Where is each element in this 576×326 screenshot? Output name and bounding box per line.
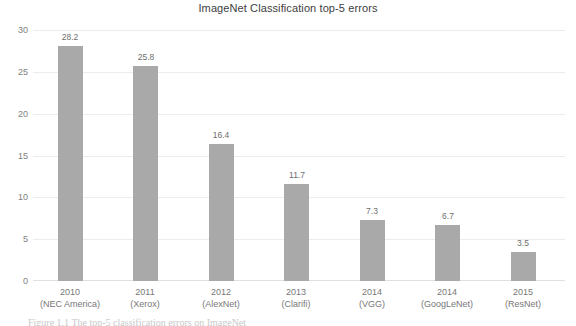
y-axis-tick-20: 20 <box>4 110 28 119</box>
bar-value-2015: 3.5 <box>498 239 548 248</box>
plot-area: 28.2 25.8 16.4 11.7 7.3 6.7 3.5 <box>33 30 565 281</box>
bar-2014-vgg[interactable] <box>360 220 385 281</box>
bar-2015[interactable] <box>511 252 536 281</box>
bar-chart: ImageNet Classification top-5 errors 30 … <box>0 0 576 326</box>
chart-title: ImageNet Classification top-5 errors <box>0 2 576 14</box>
x-axis-tick-2015-year: 2015 <box>478 286 568 298</box>
bar-2012[interactable] <box>209 144 234 281</box>
bar-value-2012: 16.4 <box>196 131 246 140</box>
x-axis-tick-2015: 2015 (ResNet) <box>478 286 568 310</box>
figure-caption: Figure 1.1 The top-5 classification erro… <box>28 317 548 326</box>
x-axis-tick-2015-sub: (ResNet) <box>478 298 568 310</box>
y-axis-tick-30: 30 <box>4 26 28 35</box>
bar-value-2011: 25.8 <box>121 53 171 62</box>
bar-2014-googlenet[interactable] <box>435 225 460 281</box>
bar-value-2014-googlenet: 6.7 <box>423 212 473 221</box>
gridline-20 <box>33 114 565 115</box>
y-axis-tick-5: 5 <box>4 235 28 244</box>
bar-2011[interactable] <box>133 66 158 281</box>
gridline-15 <box>33 156 565 157</box>
bar-value-2010: 28.2 <box>45 33 95 42</box>
bar-2013[interactable] <box>284 184 309 282</box>
y-axis-tick-10: 10 <box>4 193 28 202</box>
y-axis-tick-0: 0 <box>4 277 28 286</box>
bar-2010[interactable] <box>58 46 83 281</box>
bar-value-2014-vgg: 7.3 <box>347 207 397 216</box>
bar-value-2013: 11.7 <box>272 171 322 180</box>
y-axis-tick-15: 15 <box>4 152 28 161</box>
gridline-25 <box>33 72 565 73</box>
gridline-30 <box>33 30 565 31</box>
y-axis-tick-25: 25 <box>4 68 28 77</box>
